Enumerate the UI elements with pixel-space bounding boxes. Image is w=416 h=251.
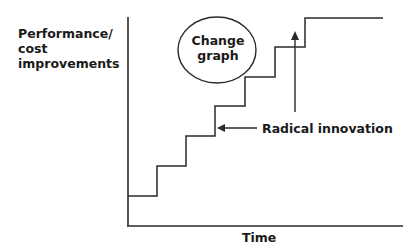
y-label-line-3: improvements: [18, 56, 128, 71]
circle-label-line-2: graph: [186, 48, 250, 63]
circle-label: Change graph: [186, 33, 250, 63]
arrow-up-icon: [291, 31, 299, 40]
radical-innovation-label: Radical innovation: [262, 121, 393, 136]
circle-label-line-1: Change: [186, 33, 250, 48]
y-label-line-2: cost: [18, 41, 128, 56]
y-label-line-1: Performance/: [18, 26, 128, 41]
x-axis-label: Time: [242, 230, 276, 245]
y-axis-label: Performance/ cost improvements: [18, 26, 128, 71]
arrow-left-icon: [217, 124, 225, 132]
